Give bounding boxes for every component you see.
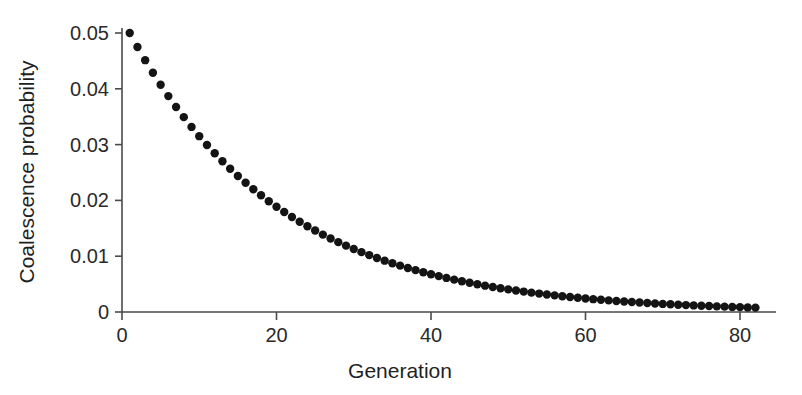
data-point bbox=[342, 241, 350, 249]
data-point bbox=[419, 268, 427, 276]
data-point bbox=[380, 256, 388, 264]
data-point bbox=[496, 284, 504, 292]
data-point bbox=[512, 286, 520, 294]
data-point bbox=[180, 113, 188, 121]
data-point bbox=[473, 280, 481, 288]
data-point bbox=[218, 157, 226, 165]
data-point bbox=[597, 296, 605, 304]
data-point bbox=[543, 290, 551, 298]
data-point bbox=[697, 302, 705, 310]
data-point bbox=[612, 297, 620, 305]
data-point bbox=[481, 281, 489, 289]
data-point bbox=[149, 69, 157, 77]
data-point bbox=[295, 218, 303, 226]
data-point bbox=[651, 299, 659, 307]
y-axis-title: Coalescence probability bbox=[15, 60, 38, 283]
data-point bbox=[388, 259, 396, 267]
data-point bbox=[465, 279, 473, 287]
data-point bbox=[728, 303, 736, 311]
y-axis-tick-label: 0 bbox=[98, 301, 109, 323]
data-point bbox=[350, 245, 358, 253]
data-point bbox=[736, 303, 744, 311]
y-axis-tick-label: 0.01 bbox=[70, 245, 109, 267]
figure-container: 00.010.020.030.040.05 020406080 Generati… bbox=[0, 0, 802, 395]
data-point bbox=[172, 103, 180, 111]
data-point bbox=[674, 300, 682, 308]
y-axis-tick-label: 0.04 bbox=[70, 78, 109, 100]
data-point bbox=[411, 266, 419, 274]
data-point bbox=[620, 297, 628, 305]
x-axis-title: Generation bbox=[348, 359, 452, 382]
data-point bbox=[435, 272, 443, 280]
data-point bbox=[589, 295, 597, 303]
x-axis-tick-label: 40 bbox=[420, 324, 442, 346]
data-point bbox=[404, 264, 412, 272]
data-point bbox=[164, 92, 172, 100]
data-point bbox=[713, 302, 721, 310]
data-point bbox=[234, 172, 242, 180]
data-point bbox=[319, 230, 327, 238]
x-axis-tick-label: 20 bbox=[265, 324, 287, 346]
data-point bbox=[195, 132, 203, 140]
data-point bbox=[249, 185, 257, 193]
coalescence-probability-scatter-plot: 00.010.020.030.040.05 020406080 Generati… bbox=[0, 0, 802, 395]
data-point bbox=[581, 294, 589, 302]
data-point bbox=[558, 292, 566, 300]
data-point bbox=[187, 123, 195, 131]
data-point bbox=[357, 248, 365, 256]
data-point bbox=[396, 261, 404, 269]
data-point bbox=[288, 213, 296, 221]
data-point bbox=[643, 299, 651, 307]
data-point bbox=[133, 43, 141, 51]
data-point bbox=[744, 303, 752, 311]
data-point bbox=[458, 277, 466, 285]
data-point bbox=[226, 165, 234, 173]
data-point bbox=[566, 293, 574, 301]
data-point bbox=[489, 283, 497, 291]
y-axis-tick-label: 0.03 bbox=[70, 134, 109, 156]
data-point bbox=[211, 149, 219, 157]
x-axis-tick-label: 0 bbox=[116, 324, 127, 346]
data-point bbox=[705, 302, 713, 310]
data-point bbox=[520, 287, 528, 295]
data-point bbox=[203, 141, 211, 149]
y-axis-tick-label: 0.05 bbox=[70, 22, 109, 44]
data-point bbox=[689, 301, 697, 309]
data-point bbox=[241, 179, 249, 187]
data-point bbox=[265, 197, 273, 205]
data-point bbox=[628, 298, 636, 306]
data-point bbox=[272, 203, 280, 211]
data-point bbox=[682, 301, 690, 309]
data-point bbox=[659, 300, 667, 308]
data-point bbox=[720, 302, 728, 310]
data-point bbox=[373, 254, 381, 262]
data-point bbox=[504, 285, 512, 293]
data-point bbox=[257, 191, 265, 199]
data-point bbox=[280, 208, 288, 216]
data-point bbox=[334, 238, 342, 246]
data-point bbox=[326, 234, 334, 242]
x-axis-tick-label: 80 bbox=[729, 324, 751, 346]
data-point bbox=[126, 29, 134, 37]
data-point bbox=[527, 288, 535, 296]
data-point bbox=[141, 56, 149, 64]
data-point bbox=[156, 81, 164, 89]
data-point bbox=[427, 270, 435, 278]
x-axis-tick-label: 60 bbox=[574, 324, 596, 346]
data-point bbox=[751, 303, 759, 311]
data-point bbox=[550, 291, 558, 299]
data-point bbox=[574, 294, 582, 302]
data-point bbox=[635, 298, 643, 306]
data-point bbox=[442, 274, 450, 282]
data-point bbox=[450, 275, 458, 283]
data-point bbox=[604, 296, 612, 304]
data-point bbox=[666, 300, 674, 308]
data-point bbox=[311, 226, 319, 234]
y-axis-tick-label: 0.02 bbox=[70, 189, 109, 211]
data-point bbox=[303, 222, 311, 230]
data-point bbox=[365, 251, 373, 259]
data-point bbox=[535, 289, 543, 297]
